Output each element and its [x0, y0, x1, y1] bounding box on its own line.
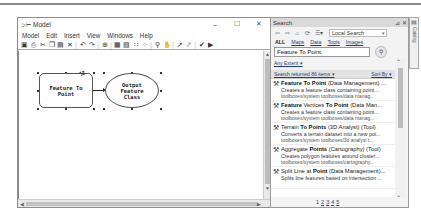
menu-insert[interactable]: Insert	[64, 32, 80, 39]
selection-handle[interactable]	[131, 108, 133, 110]
close-button[interactable]: ✕	[248, 20, 270, 28]
search-titlebar[interactable]: Search ⊿ ✕	[271, 18, 408, 27]
tool-icon: ⚒	[273, 124, 281, 144]
search-tabs: ALL Maps Data Tools Images	[271, 38, 408, 46]
pin-icon[interactable]: ⊿	[394, 20, 401, 26]
delete-icon[interactable]: ✕	[66, 40, 73, 49]
page-1[interactable]: 1	[316, 199, 319, 205]
home-icon[interactable]: ⌂	[293, 30, 301, 36]
auto-layout-icon[interactable]: ▦	[114, 40, 121, 49]
connector-arrow[interactable]	[93, 90, 105, 91]
options-icon[interactable]: ☰▾	[313, 29, 325, 36]
catalog-label: Catalog	[412, 27, 417, 43]
extent-dropdown[interactable]: Any Extent ▾	[274, 60, 303, 66]
search-input[interactable]: Feature To Point	[274, 47, 370, 57]
vertical-scrollbar[interactable]: ▲ ▼	[263, 51, 270, 199]
refresh-icon[interactable]: ⟳	[303, 29, 311, 36]
scroll-thumb[interactable]	[398, 68, 403, 128]
results-scrollbar[interactable]: ⌃ ⌄	[395, 58, 405, 198]
menu-windows[interactable]: Windows	[107, 32, 133, 39]
selection-handle[interactable]	[93, 72, 95, 74]
grid-icon[interactable]: ∷	[132, 40, 139, 49]
list-item[interactable]: ⚒ Terrain To Points (3D Analyst) (Tool) …	[271, 123, 395, 145]
result-title[interactable]: Aggregate	[281, 146, 309, 152]
chevron-up-icon[interactable]: ⌃	[396, 58, 401, 65]
page-2[interactable]: 2	[321, 199, 324, 205]
page-3[interactable]: 3	[326, 199, 329, 205]
maximize-button[interactable]: ☐	[226, 20, 248, 28]
add-data-icon[interactable]: ⊕	[101, 40, 108, 49]
list-item[interactable]: ⚒ Feature Vertices To Point (Data Man...…	[271, 101, 395, 123]
save-icon[interactable]: ▣	[21, 40, 28, 49]
results-count[interactable]: Search returned 86 items ▾	[274, 71, 335, 77]
connect-icon[interactable]: ⤤	[185, 40, 192, 49]
paste-icon[interactable]: ▤	[57, 40, 64, 49]
output-node-feature-class[interactable]: Output Feature Class	[105, 73, 159, 108]
scroll-thumb[interactable]	[26, 202, 258, 206]
redo-icon[interactable]: ↷	[88, 40, 95, 49]
page-5[interactable]: 5	[336, 199, 339, 205]
result-title-bold: Point	[313, 168, 328, 174]
print-icon[interactable]: ⎙	[30, 40, 37, 49]
selection-handle[interactable]	[160, 90, 162, 92]
selection-handle[interactable]	[37, 72, 39, 74]
selection-handle[interactable]	[160, 108, 162, 110]
result-title[interactable]: Split Line at	[281, 168, 313, 174]
tool-node-feature-to-point[interactable]: Feature To Point	[39, 73, 93, 108]
tab-all[interactable]: ALL	[275, 39, 285, 45]
select-all-icon[interactable]: ⁘	[141, 40, 148, 49]
list-item[interactable]: ⚒ Feature To Point (Data Management) ...…	[271, 79, 395, 101]
selection-handle[interactable]	[65, 108, 67, 110]
result-title[interactable]: Terrain	[281, 124, 300, 130]
close-icon[interactable]: ✕	[401, 20, 408, 26]
horizontal-scrollbar[interactable]: ◀ ▶	[18, 199, 270, 207]
copy-icon[interactable]: ❐	[48, 40, 55, 49]
toolbar-separator: |	[172, 40, 174, 49]
page-4[interactable]: 4	[331, 199, 334, 205]
result-title-rest: (Data Management) ...	[326, 80, 386, 86]
list-item[interactable]: ⚒ Aggregate Points (Cartography) (Tool) …	[271, 145, 395, 167]
cut-icon[interactable]: ✂	[39, 40, 46, 49]
selection-handle[interactable]	[160, 72, 162, 74]
back-icon[interactable]: ⇦	[273, 29, 281, 36]
tab-images[interactable]: Images	[346, 39, 363, 45]
tab-tools[interactable]: Tools	[327, 39, 339, 45]
chevron-down-icon[interactable]: ⌄	[396, 191, 401, 198]
menu-edit[interactable]: Edit	[46, 32, 57, 39]
search-button[interactable]: ⚲	[375, 46, 387, 58]
selection-handle[interactable]	[103, 108, 105, 110]
result-title[interactable]: Feature To Point	[281, 80, 326, 86]
menu-help[interactable]: Help	[140, 32, 153, 39]
scroll-left-icon[interactable]: ◀	[20, 200, 24, 208]
menu-model[interactable]: Model	[22, 32, 39, 39]
run-icon[interactable]: ▶	[207, 40, 214, 49]
minimize-button[interactable]: –	[204, 21, 226, 28]
menu-bar: Model Edit Insert View Windows Help	[18, 30, 270, 40]
result-description: Creates a feature class containing point…	[281, 87, 393, 93]
menu-view[interactable]: View	[87, 32, 101, 39]
full-extent-icon[interactable]: ▧	[123, 40, 130, 49]
selection-handle[interactable]	[103, 72, 105, 74]
tab-data[interactable]: Data	[310, 39, 321, 45]
scroll-right-icon[interactable]: ▶	[257, 200, 261, 208]
list-item[interactable]: ⚒ Split Line at Point (Data Management).…	[271, 167, 395, 189]
search-scope-dropdown[interactable]: Local Search	[329, 29, 387, 37]
sort-by-dropdown[interactable]: Sort By ▾	[371, 71, 392, 77]
pan-icon[interactable]: ✋	[163, 40, 170, 49]
forward-icon[interactable]: ⇨	[283, 29, 291, 36]
selection-handle[interactable]	[37, 108, 39, 110]
selection-handle[interactable]	[93, 108, 95, 110]
tool-icon: ⚒	[273, 168, 281, 188]
catalog-tab[interactable]: ▤ Catalog	[409, 17, 419, 69]
tool-node-label: Feature To	[49, 85, 82, 91]
toolbar-separator: |	[110, 40, 112, 49]
zoom-in-icon[interactable]: ⚲	[154, 40, 161, 49]
model-titlebar[interactable]: ⊃⊢ Model – ☐ ✕	[18, 18, 270, 30]
validate-icon[interactable]: ✔	[198, 40, 205, 49]
select-icon[interactable]: ➚	[176, 40, 183, 49]
result-title[interactable]: Feature	[281, 102, 302, 108]
tool-icon: ⚒	[273, 102, 281, 122]
tool-node-label: Point	[49, 91, 82, 97]
undo-icon[interactable]: ↶	[79, 40, 86, 49]
tab-maps[interactable]: Maps	[291, 39, 304, 45]
